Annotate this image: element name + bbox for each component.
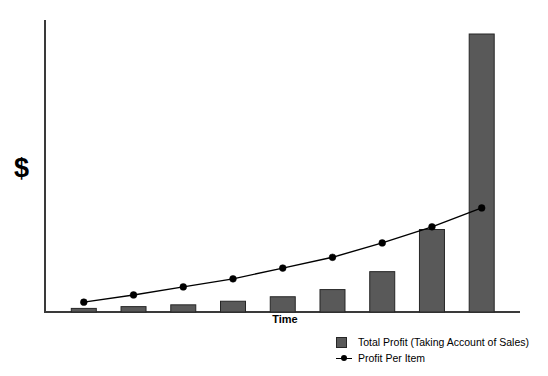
y-axis-title: $ [14,153,29,183]
bar [71,308,96,312]
line-marker-swatch-icon [336,354,352,363]
legend-label-profit-per-item: Profit Per Item [358,351,425,366]
data-point-marker [379,240,386,247]
legend-swatch-wrapper [336,337,358,348]
legend-item-profit-per-item: Profit Per Item [336,350,546,366]
data-point-marker [130,292,137,299]
bar [419,230,444,313]
legend-item-total-profit: Total Profit (Taking Account of Sales) [336,334,546,350]
bar [171,305,196,312]
chart-legend: Total Profit (Taking Account of Sales) P… [336,334,546,366]
bar [221,301,246,312]
data-point-marker [429,223,436,230]
bar [370,272,395,312]
legend-swatch-wrapper [336,354,358,363]
data-point-marker [80,299,87,306]
chart-plot-area: $ Time [0,0,548,376]
bar [469,34,494,312]
data-point-marker [329,254,336,261]
chart-container: $ Time Total Profit (Taking Account of S… [0,0,548,376]
bar [121,307,146,312]
x-axis-title: Time [272,313,297,325]
legend-label-total-profit: Total Profit (Taking Account of Sales) [358,335,529,350]
data-point-marker [180,283,187,290]
data-point-marker [478,205,485,212]
bar [320,290,345,312]
square-swatch-icon [336,337,347,348]
bar [270,297,295,312]
data-point-marker [279,265,286,272]
data-point-marker [230,275,237,282]
